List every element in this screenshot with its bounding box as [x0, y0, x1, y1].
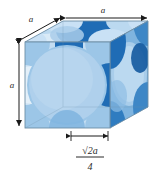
dimension-depth-label: a: [29, 14, 34, 24]
dimension-width: a: [66, 5, 147, 18]
dimension-width-label: a: [101, 5, 106, 15]
atomic-radius-denominator: 4: [88, 161, 93, 172]
dimension-atomic-radius: √2a 4: [71, 131, 108, 172]
fcc-unit-cell-svg: a a a √2a 4: [0, 0, 164, 174]
dimension-height-label: a: [10, 80, 15, 90]
atomic-radius-numerator: √2a: [82, 145, 98, 156]
figure-container: a a a √2a 4: [0, 0, 164, 174]
dimension-height: a: [10, 44, 19, 126]
